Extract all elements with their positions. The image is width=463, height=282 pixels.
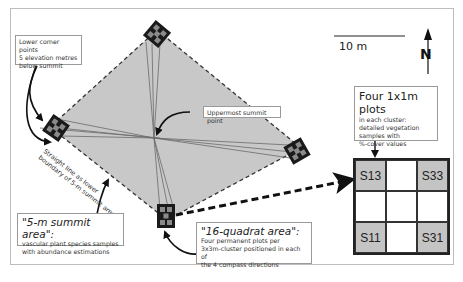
plot-cell: [386, 191, 417, 222]
plot-cell-s31: S31: [417, 222, 448, 253]
callout-plots: Four 1x1m plots in each cluster: detaile…: [354, 86, 438, 141]
arrow-lower-corner-to-left: [30, 66, 42, 120]
north-arrow-head: [424, 28, 432, 40]
plot-cell: [386, 160, 417, 191]
callout-quadrat-area: "16-quadrat area": Four permanent plots …: [196, 222, 312, 264]
plot-cell: [386, 222, 417, 253]
plot-cell: [417, 191, 448, 222]
plot-cell: [355, 191, 386, 222]
cluster-plot-grid: S13 S33 S11 S31: [353, 158, 450, 255]
scale-bar-label: 10 m: [339, 40, 367, 53]
north-label: N: [420, 46, 432, 62]
plot-cell-s33: S33: [417, 160, 448, 191]
cluster-bottom: [157, 204, 175, 228]
plot-cell-s11: S11: [355, 222, 386, 253]
plot-cell-s13: S13: [355, 160, 386, 191]
callout-summit-point: Uppermost summit point: [203, 106, 281, 118]
callout-summit-area: "5-m summit area": vascular plant specie…: [17, 213, 124, 246]
callout-lower-corner: Lower corner points 5 elevation metres b…: [15, 35, 82, 65]
